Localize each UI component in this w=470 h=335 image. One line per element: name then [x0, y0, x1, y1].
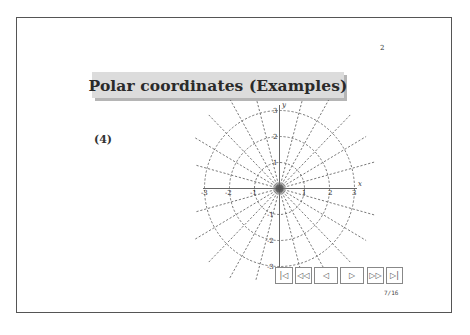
- y-tick-label: -3: [267, 263, 274, 271]
- y-tick-label: 2: [273, 133, 277, 141]
- last-slide-button[interactable]: ▷|: [386, 267, 403, 284]
- slide-title: Polar coordinates (Examples): [89, 76, 348, 95]
- polar-grid-plot: -3 -2 -1 1 2 3 x 3 2 1 -1 -2 -3 y: [195, 100, 375, 280]
- y-axis-label: y: [281, 101, 287, 109]
- example-label: (4): [94, 133, 112, 146]
- first-slide-button[interactable]: |◁: [275, 267, 293, 284]
- radial-line: [209, 189, 280, 263]
- x-tick-label: 3: [352, 189, 356, 197]
- y-tick-label: -2: [267, 237, 274, 245]
- slide-counter: 7/16: [384, 289, 398, 296]
- x-tick-label: -1: [250, 189, 257, 197]
- next-slide-button[interactable]: ▷: [340, 267, 364, 284]
- x-axis-label: x: [358, 180, 362, 188]
- previous-slide-button[interactable]: ◁: [314, 267, 338, 284]
- title-box: Polar coordinates (Examples): [92, 72, 344, 98]
- x-tick-label: -2: [225, 189, 232, 197]
- x-tick-label: 1: [302, 189, 306, 197]
- y-tick-label: 1: [273, 159, 277, 167]
- x-tick-label: -3: [201, 189, 208, 197]
- y-tick-label: 3: [273, 107, 277, 115]
- x-tick-label: 2: [328, 189, 332, 197]
- radial-line: [280, 115, 351, 189]
- y-tick-label: -1: [267, 211, 274, 219]
- page-number: 2: [380, 44, 384, 52]
- next-section-button[interactable]: ▷▷: [367, 267, 384, 284]
- previous-section-button[interactable]: ◁◁: [295, 267, 312, 284]
